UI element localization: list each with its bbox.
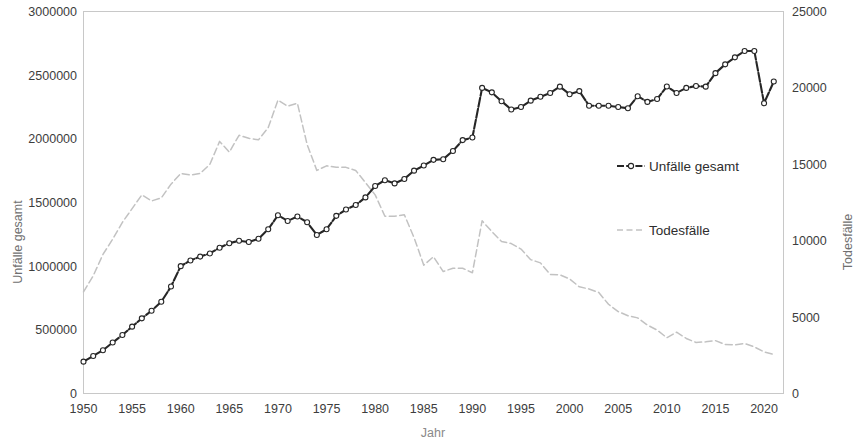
data-point-marker	[266, 227, 271, 232]
data-point-marker	[635, 94, 640, 99]
data-point-marker	[596, 103, 601, 108]
data-point-marker	[285, 218, 290, 223]
data-point-marker	[217, 245, 222, 250]
data-point-marker	[732, 55, 737, 60]
data-point-marker	[178, 264, 183, 269]
y-axis-left-tick: 2000000	[28, 132, 77, 146]
x-axis-tick: 2000	[556, 402, 584, 416]
data-point-marker	[100, 348, 105, 353]
data-point-marker	[431, 157, 436, 162]
data-point-marker	[480, 85, 485, 90]
data-point-marker	[344, 207, 349, 212]
data-point-marker	[752, 48, 757, 53]
data-point-marker	[237, 238, 242, 243]
data-point-marker	[314, 232, 319, 237]
data-point-marker	[324, 227, 329, 232]
data-point-marker	[334, 213, 339, 218]
data-point-marker	[412, 168, 417, 173]
data-point-marker	[169, 284, 174, 289]
data-point-marker	[295, 214, 300, 219]
data-point-marker	[538, 94, 543, 99]
y-axis-left-tick: 3000000	[28, 5, 77, 19]
y-axis-right-tick: 10000	[792, 234, 827, 248]
data-point-marker	[470, 135, 475, 140]
y-axis-left-tick: 0	[70, 387, 77, 401]
accidents-deaths-line-chart: 0500000100000015000002000000250000030000…	[0, 0, 859, 442]
legend-label-todesfaelle: Todesfälle	[649, 223, 710, 238]
data-point-marker	[713, 71, 718, 76]
x-axis-tick: 1985	[410, 402, 438, 416]
data-point-marker	[645, 99, 650, 104]
data-point-marker	[684, 85, 689, 90]
legend-label-unfaelle-gesamt: Unfälle gesamt	[649, 159, 739, 174]
data-point-marker	[305, 220, 310, 225]
data-point-marker	[81, 359, 86, 364]
x-axis-tick: 1960	[167, 402, 195, 416]
y-axis-right-tick: 25000	[792, 5, 827, 19]
x-axis-tick: 1955	[118, 402, 146, 416]
y-axis-right-tick: 15000	[792, 158, 827, 172]
data-point-marker	[159, 299, 164, 304]
y-axis-left-tick: 1000000	[28, 260, 77, 274]
data-point-marker	[771, 79, 776, 84]
data-point-marker	[655, 96, 660, 101]
data-point-marker	[567, 92, 572, 97]
data-point-marker	[382, 178, 387, 183]
data-point-marker	[548, 90, 553, 95]
data-point-marker	[489, 90, 494, 95]
data-point-marker	[606, 103, 611, 108]
data-point-marker	[110, 340, 115, 345]
data-point-marker	[509, 107, 514, 112]
data-point-marker	[616, 105, 621, 110]
data-point-marker	[577, 89, 582, 94]
data-point-marker	[188, 258, 193, 263]
data-point-marker	[703, 84, 708, 89]
x-axis-tick: 2015	[702, 402, 730, 416]
data-point-marker	[198, 254, 203, 259]
data-point-marker	[460, 138, 465, 143]
data-point-marker	[91, 353, 96, 358]
data-point-marker	[373, 183, 378, 188]
x-axis-tick: 1975	[313, 402, 341, 416]
data-point-marker	[723, 62, 728, 67]
data-point-marker	[392, 181, 397, 186]
data-point-marker	[742, 48, 747, 53]
x-axis-tick: 1995	[507, 402, 535, 416]
data-point-marker	[402, 176, 407, 181]
y-axis-right-tick: 5000	[792, 311, 820, 325]
x-axis-tick: 1970	[264, 402, 292, 416]
x-axis-tick: 2010	[653, 402, 681, 416]
data-point-marker	[130, 324, 135, 329]
y-axis-left-title: Unfälle gesamt	[11, 200, 25, 284]
data-point-marker	[139, 316, 144, 321]
data-point-marker	[674, 90, 679, 95]
data-point-marker	[421, 163, 426, 168]
chart-container: 0500000100000015000002000000250000030000…	[0, 0, 859, 442]
data-point-marker	[528, 98, 533, 103]
y-axis-left-tick: 1500000	[28, 196, 77, 210]
data-point-marker	[363, 195, 368, 200]
data-point-marker	[275, 213, 280, 218]
data-point-marker	[587, 103, 592, 108]
data-point-marker	[664, 84, 669, 89]
x-axis-tick: 1965	[215, 402, 243, 416]
chart-background	[0, 0, 859, 442]
data-point-marker	[120, 332, 125, 337]
data-point-marker	[441, 157, 446, 162]
y-axis-left-tick: 2500000	[28, 69, 77, 83]
data-point-marker	[256, 236, 261, 241]
y-axis-right-title: Todesfälle	[841, 214, 855, 270]
y-axis-right-tick: 0	[792, 387, 799, 401]
y-axis-left-tick: 500000	[35, 323, 77, 337]
x-axis-tick: 2005	[604, 402, 632, 416]
x-axis-tick: 2020	[750, 402, 778, 416]
data-point-marker	[246, 239, 251, 244]
data-point-marker	[227, 241, 232, 246]
data-point-marker	[207, 251, 212, 256]
data-point-marker	[694, 83, 699, 88]
data-point-marker	[519, 105, 524, 110]
data-point-marker	[762, 101, 767, 106]
data-point-marker	[557, 84, 562, 89]
data-point-marker	[450, 148, 455, 153]
legend-marker-icon-unfaelle	[628, 163, 633, 168]
